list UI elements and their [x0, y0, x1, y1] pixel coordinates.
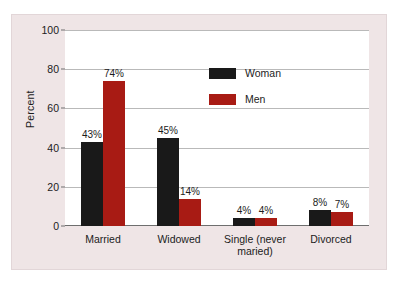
y-axis-tick-label: 40: [47, 142, 59, 153]
bar-men[interactable]: [331, 212, 353, 226]
bar-group: 43%74%Married: [65, 81, 141, 226]
legend-item-woman: Woman: [209, 68, 281, 79]
legend-item-men: Men: [209, 94, 281, 105]
bar-column[interactable]: 7%: [331, 212, 353, 226]
bar-group: 8%7%Divorced: [293, 210, 369, 226]
bar-value-label: 7%: [335, 200, 349, 210]
y-axis-title: Percent: [24, 90, 36, 128]
bar-group: 4%4%Single (nevermaried): [217, 218, 293, 226]
bar-woman[interactable]: [81, 142, 103, 226]
bar-column[interactable]: 43%: [81, 142, 103, 226]
y-axis-tick-label: 80: [47, 64, 59, 75]
bar-woman[interactable]: [309, 210, 331, 226]
bar-men[interactable]: [103, 81, 125, 226]
y-axis-tick-label: 60: [47, 103, 59, 114]
plot-area: 02040608010043%74%Married45%14%Widowed4%…: [65, 30, 369, 226]
bar-woman[interactable]: [233, 218, 255, 226]
bar-men[interactable]: [179, 199, 201, 226]
legend-label-men: Men: [245, 94, 265, 105]
bar-value-label: 43%: [82, 130, 102, 140]
y-axis-tick-mark: [61, 30, 65, 31]
bar-value-label: 14%: [180, 187, 200, 197]
x-axis-tick-label: Divorced: [283, 233, 379, 245]
bar-column[interactable]: 45%: [157, 138, 179, 226]
bar-column[interactable]: 8%: [309, 210, 331, 226]
legend-label-woman: Woman: [245, 68, 281, 79]
gridline: [65, 30, 369, 31]
y-axis-tick-label: 100: [41, 25, 59, 36]
bar-woman[interactable]: [157, 138, 179, 226]
men-swatch-icon: [209, 94, 236, 105]
bar-column[interactable]: 74%: [103, 81, 125, 226]
bar-column[interactable]: 14%: [179, 199, 201, 226]
bar-column[interactable]: 4%: [255, 218, 277, 226]
figure-panel: Percent 02040608010043%74%Married45%14%W…: [11, 14, 387, 270]
bar-group: 45%14%Widowed: [141, 138, 217, 226]
y-axis-tick-label: 20: [47, 182, 59, 193]
bar-column[interactable]: 4%: [233, 218, 255, 226]
bar-men[interactable]: [255, 218, 277, 226]
woman-swatch-icon: [209, 68, 236, 79]
bar-value-label: 8%: [313, 198, 327, 208]
y-axis-tick-label: 0: [53, 221, 59, 232]
bar-value-label: 4%: [259, 206, 273, 216]
bar-value-label: 45%: [158, 126, 178, 136]
bar-value-label: 74%: [104, 69, 124, 79]
chart-legend: Woman Men: [209, 68, 281, 105]
bar-value-label: 4%: [237, 206, 251, 216]
y-axis-tick-mark: [61, 69, 65, 70]
